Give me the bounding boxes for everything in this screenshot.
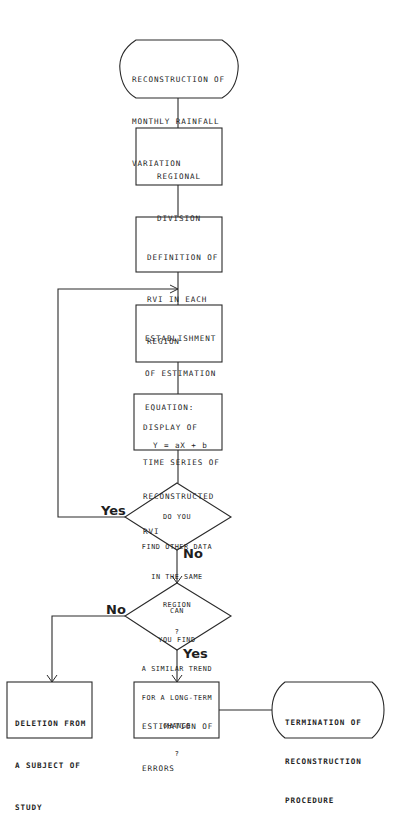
decision1-line-1: DO YOU: [127, 512, 227, 522]
end-line-2: RECONSTRUCTION: [285, 755, 362, 768]
decision2-line-3: A SIMILAR TREND: [127, 665, 227, 675]
deletion-line-1: DELETION FROM: [15, 717, 86, 731]
decision2-line-1: CAN: [127, 607, 227, 617]
deletion-line-3: STUDY: [15, 801, 86, 814]
deletion-text: DELETION FROM A SUBJECT OF STUDY: [15, 689, 86, 814]
display-line-1: DISPLAY OF: [143, 422, 220, 434]
start-line-2: MONTHLY RAINFALL: [132, 115, 225, 129]
decision2-line-2: YOU FIND: [127, 636, 227, 646]
establishment-line-2: OF ESTIMATION: [145, 368, 216, 380]
establishment-line-1: ESTABLISHMENT: [145, 333, 216, 345]
estimation-errors-text: ESTIMATION OF ERRORS: [142, 692, 213, 790]
decision2-yes-label: Yes: [183, 646, 208, 661]
display-line-2: TIME SERIES OF: [143, 457, 220, 469]
end-line-3: PROCEDURE: [285, 794, 362, 807]
decision1-line-3: IN THE SAME: [127, 572, 227, 582]
regional-line-1: REGIONAL: [136, 170, 222, 184]
end-line-1: TERMINATION OF: [285, 716, 362, 729]
deletion-line-2: A SUBJECT OF: [15, 759, 86, 773]
end-terminal-text: TERMINATION OF RECONSTRUCTION PROCEDURE: [285, 690, 362, 814]
decision1-yes-label: Yes: [101, 503, 126, 518]
estimation-line-1: ESTIMATION OF: [142, 720, 213, 734]
connector-trend-no: [52, 616, 125, 682]
decision1-no-label: No: [183, 546, 203, 561]
definition-line-1: DEFINITION OF: [147, 251, 218, 265]
decision2-no-label: No: [106, 602, 126, 617]
estimation-line-2: ERRORS: [142, 762, 213, 776]
start-line-1: RECONSTRUCTION OF: [132, 73, 225, 87]
decision1-line-2: FIND OTHER DATA: [127, 542, 227, 552]
definition-line-2: RVI IN EACH: [147, 293, 218, 307]
